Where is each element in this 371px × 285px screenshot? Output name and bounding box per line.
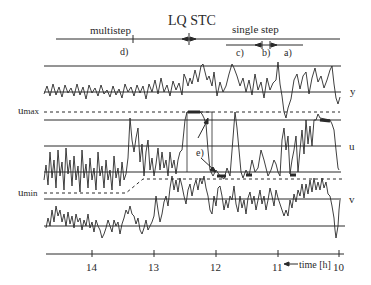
label-multistep: multistep — [90, 25, 131, 36]
marker-b: b) — [262, 48, 270, 58]
series-label-v: v — [349, 194, 355, 205]
marker-c: c) — [236, 48, 244, 58]
label-title: LQ STC — [168, 14, 216, 28]
umax-label: umax — [18, 105, 39, 116]
series-label-y: y — [350, 86, 356, 97]
tick-13: 13 — [148, 262, 159, 273]
series-label-u: u — [349, 141, 355, 152]
time-arrow-icon — [284, 262, 289, 266]
umin-dashed-line — [44, 179, 345, 193]
umin-label: umin — [18, 187, 38, 198]
marker-a: a) — [284, 48, 292, 58]
trace-u — [44, 112, 339, 192]
trace-y — [44, 62, 340, 118]
tick-12: 12 — [210, 262, 221, 273]
marker-d: d) — [120, 47, 128, 57]
tick-11: 11 — [272, 262, 283, 273]
trace-v — [46, 176, 340, 238]
tick-14: 14 — [86, 262, 97, 273]
marker-e: e) — [196, 148, 204, 158]
label-single-step: single step — [232, 24, 279, 35]
axis-label-time: time [h] — [299, 260, 331, 270]
figure: multistep LQ STC single step d) c) b) a)… — [0, 0, 371, 285]
plot-canvas — [0, 0, 371, 285]
tick-10: 10 — [333, 262, 344, 273]
